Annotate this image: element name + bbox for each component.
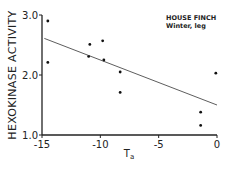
data-point	[46, 20, 49, 23]
data-point	[199, 111, 202, 114]
scatter-chart: 1.02.03.0 -15-10-50 HEXOKINASE ACTIVITY …	[0, 0, 231, 169]
data-point	[101, 39, 104, 42]
x-tick-label: -5	[154, 139, 164, 150]
data-point	[46, 61, 49, 64]
data-point	[119, 71, 122, 74]
x-tick-label: -15	[34, 139, 50, 150]
axes	[42, 15, 217, 135]
x-tick-label: -10	[92, 139, 108, 150]
data-point	[214, 72, 217, 75]
y-tick-label: 3.0	[22, 10, 38, 21]
annotation-species: HOUSE FINCH	[166, 14, 216, 22]
data-points	[46, 20, 217, 127]
data-point	[199, 124, 202, 127]
y-axis-label: HEXOKINASE ACTIVITY	[6, 10, 19, 139]
y-ticks: 1.02.03.0	[22, 10, 42, 141]
x-axis-label: Ta	[123, 148, 134, 161]
regression-line	[44, 38, 217, 105]
x-tick-label: 0	[214, 139, 220, 150]
annotation-condition: Winter, leg	[166, 22, 206, 30]
data-point	[88, 43, 91, 46]
y-tick-label: 2.0	[22, 70, 38, 81]
data-point	[119, 91, 122, 94]
